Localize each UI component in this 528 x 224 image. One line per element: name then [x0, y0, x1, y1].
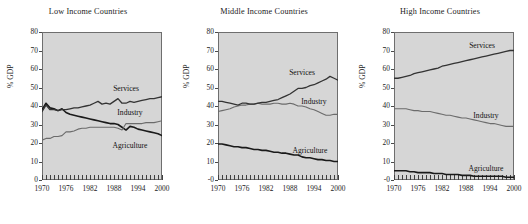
- x-tick-label: 1976: [235, 185, 250, 192]
- x-tick-label: 1970: [211, 185, 226, 192]
- x-tick-label: 1988: [107, 185, 122, 192]
- y-tick-label: 30: [207, 121, 214, 128]
- series-canvas: [42, 32, 162, 180]
- x-tick-label: 1994: [307, 185, 322, 192]
- series-line-services: [394, 51, 514, 79]
- panel-title: Middle Income Countries: [176, 7, 352, 16]
- x-tick-label: 1994: [483, 185, 498, 192]
- y-tick-label: 0: [34, 176, 38, 183]
- series-annotation: Services: [469, 40, 495, 49]
- x-tick-label: 2000: [155, 185, 170, 192]
- plot-area: 0102030405060708019701976198219881994200…: [42, 32, 162, 180]
- chart-panel: High Income Countries% GDP-0102030405060…: [352, 0, 528, 224]
- series-annotation: Services: [289, 67, 315, 76]
- y-tick-label: 30: [383, 121, 390, 128]
- y-tick-label: 80: [207, 28, 214, 35]
- y-tick-label: 40: [383, 102, 390, 109]
- y-tick-label: 80: [383, 28, 390, 35]
- y-axis-label: % GDP: [6, 65, 15, 88]
- y-tick-label: 70: [207, 47, 214, 54]
- series-line-agriculture: [42, 103, 162, 135]
- plot-area: -010203040506070801970197619821988199420…: [218, 32, 338, 180]
- x-tick-label: 1994: [131, 185, 146, 192]
- series-annotation: Agriculture: [468, 163, 503, 172]
- y-tick-label: 60: [31, 65, 38, 72]
- x-tick-label: 2000: [331, 185, 346, 192]
- y-tick-label: 40: [207, 102, 214, 109]
- y-tick-label: 80: [31, 28, 38, 35]
- series-annotation: Industry: [117, 107, 142, 116]
- y-tick-label: 40: [31, 102, 38, 109]
- y-tick-label: 50: [383, 84, 390, 91]
- chart-panel: Middle Income Countries% GDP-01020304050…: [176, 0, 352, 224]
- series-annotation: Services: [113, 84, 139, 93]
- figure-root: Low Income Countries% GDP010203040506070…: [0, 0, 528, 224]
- x-minor-tick-mark: [338, 175, 339, 180]
- x-tick-label: 1982: [435, 185, 450, 192]
- y-tick-label: 50: [207, 84, 214, 91]
- y-tick-mark: [215, 180, 218, 181]
- x-minor-tick-mark: [162, 175, 163, 180]
- plot-area: -010203040506070801970197619821988199420…: [394, 32, 514, 180]
- x-tick-label: 2000: [507, 185, 522, 192]
- series-annotation: Industry: [301, 97, 326, 106]
- y-tick-label: 10: [383, 158, 390, 165]
- x-tick-label: 1982: [259, 185, 274, 192]
- x-tick-label: 1970: [387, 185, 402, 192]
- y-tick-label: 30: [31, 121, 38, 128]
- y-tick-mark: [39, 180, 42, 181]
- x-tick-label: 1988: [459, 185, 474, 192]
- series-annotation: Agriculture: [112, 140, 147, 149]
- x-tick-label: 1982: [83, 185, 98, 192]
- series-annotation: Agriculture: [292, 146, 327, 155]
- y-tick-mark: [391, 180, 394, 181]
- y-tick-label: 20: [207, 139, 214, 146]
- y-tick-label: 10: [31, 158, 38, 165]
- y-tick-label: 20: [383, 139, 390, 146]
- y-tick-label: 60: [383, 65, 390, 72]
- panel-title: High Income Countries: [352, 7, 528, 16]
- y-tick-label: 50: [31, 84, 38, 91]
- y-tick-label: 70: [383, 47, 390, 54]
- series-canvas: [394, 32, 514, 180]
- panel-title: Low Income Countries: [0, 7, 176, 16]
- y-tick-label: 60: [207, 65, 214, 72]
- y-tick-label: 70: [31, 47, 38, 54]
- y-axis-label: % GDP: [358, 65, 367, 88]
- series-canvas: [218, 32, 338, 180]
- y-tick-label: -0: [208, 176, 214, 183]
- y-tick-label: 10: [207, 158, 214, 165]
- x-tick-label: 1976: [59, 185, 74, 192]
- y-tick-label: 20: [31, 139, 38, 146]
- chart-panel: Low Income Countries% GDP010203040506070…: [0, 0, 176, 224]
- x-tick-label: 1976: [411, 185, 426, 192]
- x-minor-tick-mark: [514, 175, 515, 180]
- x-tick-label: 1970: [35, 185, 50, 192]
- y-axis-label: % GDP: [182, 65, 191, 88]
- series-annotation: Industry: [473, 111, 498, 120]
- y-tick-label: -0: [384, 176, 390, 183]
- x-tick-label: 1988: [283, 185, 298, 192]
